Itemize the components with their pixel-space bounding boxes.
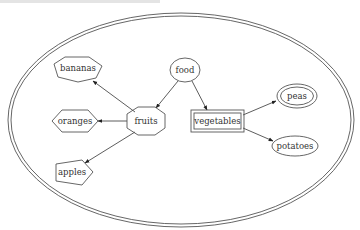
node-fruits-label: fruits [134, 116, 157, 126]
edge-food-vegetables [192, 81, 207, 110]
node-food-label: food [176, 65, 195, 75]
node-vegetables[interactable]: vegetables [191, 110, 244, 132]
node-bananas-label: bananas [60, 63, 96, 73]
node-apples-label: apples [58, 167, 86, 177]
node-bananas[interactable]: bananas [54, 57, 102, 82]
node-food[interactable]: food [170, 58, 200, 82]
node-peas[interactable]: peas [277, 84, 317, 108]
node-potatoes-label: potatoes [277, 141, 314, 151]
node-fruits[interactable]: fruits [127, 107, 165, 135]
node-apples[interactable]: apples [56, 160, 93, 185]
node-potatoes[interactable]: potatoes [272, 136, 318, 156]
clipped-text-line [0, 0, 160, 3]
edge-vegetables-peas [243, 101, 276, 115]
node-vegetables-label: vegetables [193, 116, 240, 126]
edges [85, 81, 276, 163]
node-oranges[interactable]: oranges [52, 110, 98, 132]
graph-canvas: food fruits vegetables bananas oranges a… [0, 0, 360, 230]
edge-fruits-apples [85, 132, 135, 163]
edge-vegetables-potatoes [243, 128, 273, 141]
node-peas-label: peas [287, 91, 307, 101]
node-oranges-label: oranges [58, 116, 93, 126]
edge-food-fruits [156, 81, 178, 108]
edge-fruits-bananas [93, 81, 135, 112]
